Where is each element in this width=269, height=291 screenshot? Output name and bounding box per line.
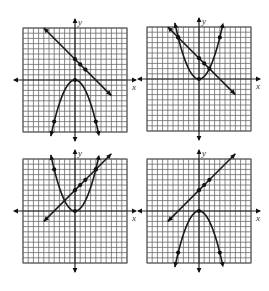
plotted-point: [197, 188, 201, 192]
plotted-point: [207, 178, 211, 182]
plotted-point: [83, 68, 87, 72]
plotted-point: [73, 57, 77, 61]
x-axis-label: x: [131, 82, 136, 92]
plotted-point: [73, 188, 77, 192]
plotted-point: [78, 183, 82, 187]
arrowhead-icon: [197, 268, 202, 273]
arrowhead-icon: [197, 17, 202, 22]
x-axis-label: x: [255, 213, 260, 223]
plotted-point: [176, 251, 180, 255]
y-axis-label: y: [77, 17, 82, 27]
plotted-point: [78, 62, 82, 66]
plotted-point: [197, 56, 201, 60]
plotted-point: [176, 35, 180, 39]
graph-top-right: xy: [137, 16, 261, 141]
y-axis-label: y: [77, 148, 82, 158]
plotted-point: [218, 251, 222, 255]
arrowhead-icon: [197, 136, 202, 141]
plotted-point: [83, 178, 87, 182]
arrowhead-icon: [137, 209, 142, 214]
plotted-point: [202, 61, 206, 65]
arrowhead-icon: [13, 209, 18, 214]
plotted-point: [94, 167, 98, 171]
plotted-point: [218, 35, 222, 39]
arrowhead-icon: [73, 18, 78, 23]
graph-bottom-right: xy: [137, 148, 261, 273]
plotted-point: [94, 120, 98, 124]
arrowhead-icon: [73, 149, 78, 154]
y-axis-label: y: [201, 148, 206, 158]
arrowhead-icon: [137, 77, 142, 82]
graph-panel: xyxyxyxy: [0, 0, 269, 291]
arrowhead-icon: [73, 268, 78, 273]
graph-bottom-left: xy: [13, 148, 137, 273]
plotted-point: [52, 120, 56, 124]
plotted-point: [202, 183, 206, 187]
arrowhead-icon: [197, 149, 202, 154]
arrowhead-icon: [13, 78, 18, 83]
graph-top-left: xy: [13, 17, 137, 142]
x-axis-label: x: [255, 81, 260, 91]
plotted-point: [197, 77, 201, 81]
arrowhead-icon: [73, 137, 78, 142]
x-axis-label: x: [131, 213, 136, 223]
plotted-point: [197, 209, 201, 213]
plotted-point: [73, 209, 77, 213]
y-axis-label: y: [201, 16, 206, 26]
plotted-point: [73, 78, 77, 82]
plotted-point: [52, 167, 56, 171]
